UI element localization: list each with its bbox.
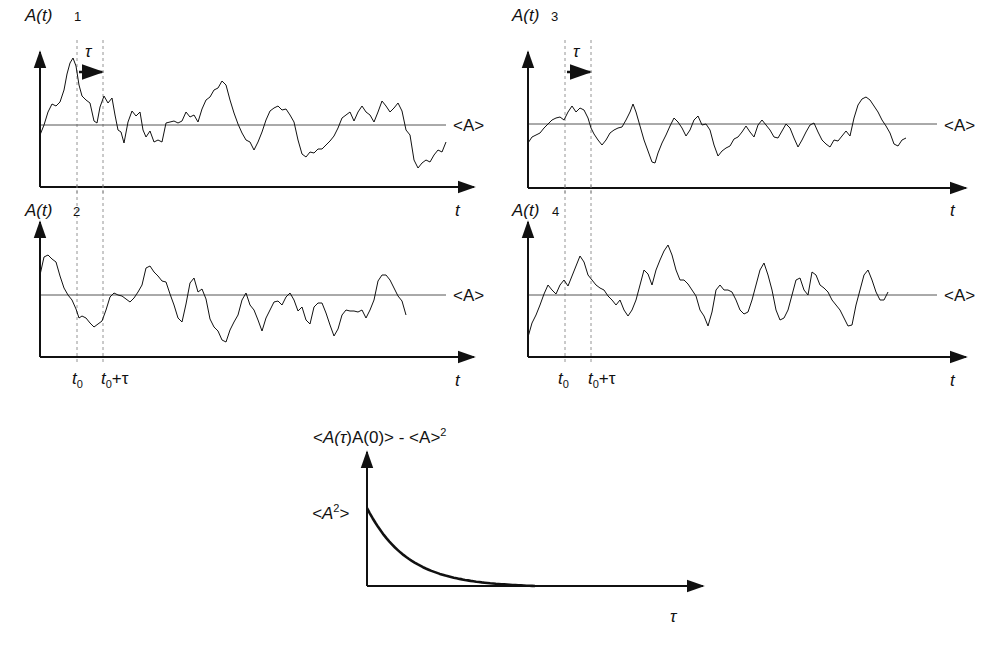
panel-2-index: 2 [73, 205, 80, 218]
panel-2 [40, 185, 474, 362]
panel-3-xlabel: t [950, 202, 955, 219]
panel-1 [40, 40, 474, 195]
panel-2-mean-label: <A> [453, 287, 484, 304]
panel-1-xlabel: t [455, 202, 460, 219]
panel-2-ylabel: A(t) [25, 202, 52, 219]
trajectory-trace [528, 245, 888, 337]
panel-4-ylabel: A(t) [512, 202, 539, 219]
panel-4-xlabel: t [950, 372, 955, 389]
panel-1-tau-label: τ [85, 43, 91, 60]
panel-2-t0-label: t0 [72, 370, 83, 390]
correlation-figure [0, 0, 1005, 648]
panel-3 [528, 40, 966, 196]
correlation-xlabel: τ [670, 608, 676, 625]
panel-1-mean-label: <A> [453, 117, 484, 134]
panel-2-xlabel: t [455, 372, 460, 389]
trajectory-trace [40, 255, 406, 342]
trajectory-trace [40, 58, 446, 168]
panel-4-t0-label: t0 [558, 370, 569, 390]
panel-4 [528, 185, 966, 362]
panel-3-tau-label: τ [573, 43, 579, 60]
panel-3-index: 3 [551, 10, 558, 23]
panel-4-t0-plus-tau-label: t0+τ [588, 370, 616, 390]
panel-4-index: 4 [552, 205, 559, 218]
panel-3-mean-label: <A> [944, 117, 975, 134]
trajectory-panels [40, 40, 966, 362]
panel-2-t0-plus-tau-label: t0+τ [101, 370, 129, 390]
panel-1-index: 1 [74, 10, 81, 23]
correlation-ylabel: <A(τ)A(0)> - <A>2 [313, 427, 446, 446]
panel-4-mean-label: <A> [944, 287, 975, 304]
panel-3-ylabel: A(t) [512, 7, 539, 24]
panel-1-ylabel: A(t) [25, 7, 52, 24]
correlation-function-chart [367, 452, 703, 586]
correlation-initial-value-label: <A2> [312, 503, 349, 522]
correlation-decay-curve [367, 508, 535, 586]
trajectory-trace [528, 97, 906, 163]
